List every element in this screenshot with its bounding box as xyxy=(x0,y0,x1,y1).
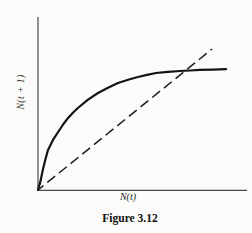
x-axis-label: N(t) xyxy=(120,191,136,202)
figure-caption: Figure 3.12 xyxy=(102,212,157,224)
axes xyxy=(37,17,247,191)
figure-3-12: N(t + 1) N(t) Figure 3.12 xyxy=(0,0,252,233)
y-axis-label: N(t + 1) xyxy=(16,74,26,109)
reproduction-curve xyxy=(38,69,226,190)
